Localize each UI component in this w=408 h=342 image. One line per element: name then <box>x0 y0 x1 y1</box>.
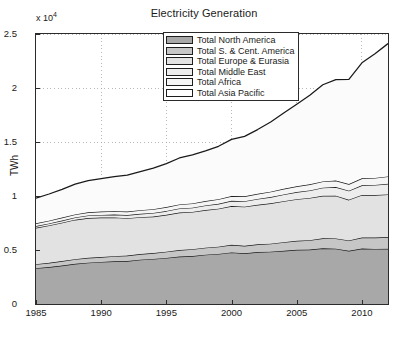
legend-item-2[interactable]: Total Europe & Eurasia <box>166 56 295 67</box>
x-tick-mark <box>166 300 167 304</box>
legend-swatch-icon <box>166 89 193 97</box>
legend-swatch-icon <box>166 68 193 76</box>
x-tick-label: 2010 <box>342 307 382 318</box>
chart-title: Electricity Generation <box>0 7 408 19</box>
x-tick-label: 1995 <box>146 307 186 318</box>
y-tick-label: 2 <box>0 82 17 93</box>
y-tick-label: 0.5 <box>0 244 17 255</box>
chart-legend: Total North AmericaTotal S. & Cent. Amer… <box>163 32 299 101</box>
x-tick-mark <box>297 300 298 304</box>
legend-item-label: Total North America <box>197 35 276 45</box>
legend-item-label: Total Europe & Eurasia <box>197 56 289 66</box>
legend-swatch-icon <box>166 36 193 44</box>
y-tick-label: 0 <box>0 298 17 309</box>
x-tick-label: 1985 <box>16 307 56 318</box>
y-axis-exponent-power: 4 <box>53 11 57 18</box>
y-tick-mark <box>36 34 40 35</box>
y-axis-exponent-label: x 104 <box>36 11 57 23</box>
legend-swatch-icon <box>166 57 193 65</box>
legend-item-label: Total Asia Pacific <box>197 88 265 98</box>
y-tick-mark <box>36 304 40 305</box>
y-tick-mark <box>36 250 40 251</box>
legend-swatch-icon <box>166 78 193 86</box>
x-tick-label: 2000 <box>212 307 252 318</box>
legend-swatch-icon <box>166 47 193 55</box>
x-tick-label: 1990 <box>81 307 121 318</box>
legend-item-0[interactable]: Total North America <box>166 35 295 46</box>
y-tick-mark <box>36 142 40 143</box>
legend-item-label: Total Middle East <box>197 67 266 77</box>
y-tick-label: 1 <box>0 190 17 201</box>
x-tick-mark <box>362 300 363 304</box>
legend-item-label: Total Africa <box>197 77 241 87</box>
x-tick-label: 2005 <box>277 307 317 318</box>
x-tick-mark <box>232 300 233 304</box>
y-tick-mark <box>36 88 40 89</box>
y-axis-exponent-mantissa: x 10 <box>36 13 53 23</box>
legend-item-5[interactable]: Total Asia Pacific <box>166 88 295 99</box>
x-tick-mark <box>36 300 37 304</box>
y-tick-label: 1.5 <box>0 136 17 147</box>
legend-item-label: Total S. & Cent. America <box>197 46 295 56</box>
x-tick-mark <box>101 300 102 304</box>
y-tick-label: 2.5 <box>0 28 17 39</box>
legend-item-4[interactable]: Total Africa <box>166 77 295 88</box>
figure-canvas: Electricity Generation x 104 TWh 00.511.… <box>0 0 408 342</box>
legend-item-1[interactable]: Total S. & Cent. America <box>166 46 295 57</box>
legend-item-3[interactable]: Total Middle East <box>166 67 295 78</box>
y-tick-mark <box>36 196 40 197</box>
